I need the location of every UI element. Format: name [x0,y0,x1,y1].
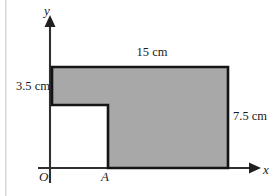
dimension-label-right: 7.5 cm [233,110,267,123]
y-axis-label: y [44,4,50,17]
l-shape-region [52,67,228,168]
dimension-label-top: 15 cm [0,46,278,59]
x-axis-arrowhead [249,163,261,174]
diagram-canvas: 15 cm 3.5 cm 7.5 cm O A y x [0,0,278,196]
geometry-figure [0,0,278,196]
dimension-label-left: 3.5 cm [2,80,50,93]
origin-label: O [39,170,48,183]
x-axis-label: x [263,163,269,176]
point-a-label: A [101,170,109,183]
